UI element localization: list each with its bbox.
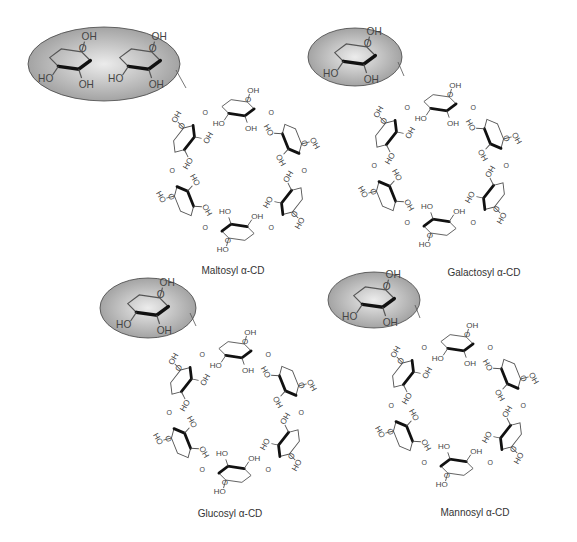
hydroxyl-label: OH <box>403 125 417 140</box>
front-edge <box>499 366 518 391</box>
hydroxyl-label: OH <box>308 136 322 151</box>
glucose-unit: OOHHOOH <box>217 207 264 254</box>
glucose-unit: OOHHOOH <box>462 162 526 226</box>
hydroxyl-label: OH <box>527 371 541 386</box>
hydroxyl-label: HO <box>500 404 514 419</box>
panel-galactosyl: OOHHOOHOOHHOOHOOOHHOOHOOOHHOOHOOOHHOOHOO… <box>308 26 526 278</box>
glycosidic-oxygen: O <box>471 219 477 226</box>
glucose-unit: OOHHOOH <box>151 412 215 476</box>
front-edge <box>441 459 466 466</box>
front-edge <box>222 224 247 231</box>
hydroxyl-label: HO <box>483 164 497 179</box>
hydroxyl-label: OH <box>421 202 433 211</box>
substituent-highlight <box>308 28 402 86</box>
glycosidic-oxygen: O <box>167 409 173 416</box>
cyclodextrin-ring: OOHHOOHOOOHHOOHOOOHHOOHOOOHHOOHOOOHHOOHO… <box>354 81 525 250</box>
oh-bond <box>431 212 433 219</box>
hydroxyl-label: OH <box>511 451 525 466</box>
hydroxyl-label: OH <box>386 269 401 280</box>
hydroxyl-label: OH <box>214 487 226 496</box>
hydroxyl-label: OH <box>198 372 212 387</box>
hydroxyl-label: OH <box>383 317 398 328</box>
glycosidic-oxygen: O <box>203 109 209 116</box>
glucose-unit: OOHHOOH <box>477 341 541 405</box>
glycosidic-oxygen: O <box>389 402 395 409</box>
glycosidic-oxygen: O <box>200 351 206 358</box>
panel-glucosyl: OOHHOOHOOHHOOHOOOHHOOHOOOHHOOHOOOHHOOHOO… <box>100 277 321 519</box>
glycosidic-oxygen: O <box>203 224 209 231</box>
hydroxyl-label: OH <box>289 458 303 473</box>
hydroxyl-label: OH <box>436 480 448 489</box>
hydroxyl-label: OH <box>160 277 175 288</box>
hydroxyl-label: HO <box>201 202 215 217</box>
hydroxyl-label: HO <box>323 68 338 79</box>
hydroxyl-label: HO <box>178 398 192 413</box>
hydroxyl-label: OH <box>244 328 256 337</box>
front-edge <box>431 104 456 111</box>
glycosidic-oxygen: O <box>405 104 411 111</box>
front-edge <box>482 126 501 151</box>
glucose-unit: OOHHOOH <box>460 101 524 165</box>
glucose-unit: OOHHOOH <box>210 328 257 375</box>
glycosidic-oxygen: O <box>269 224 275 231</box>
hydroxyl-label: OH <box>510 131 524 146</box>
hydroxyl-label: OH <box>305 378 319 393</box>
ho-bond <box>221 355 226 362</box>
oh-bond <box>464 351 466 358</box>
hydroxyl-label: HO <box>262 123 276 138</box>
hydroxyl-label: OH <box>447 119 459 128</box>
hydroxyl-label: OH <box>466 321 478 330</box>
oh-bond <box>447 111 449 118</box>
glucose-unit: OOHHOOH <box>432 321 479 368</box>
panel-maltosyl: OOHHOOHOOHHOOHOOHHOOHOOOHHOOHOOOHHOOHOOO… <box>28 27 324 276</box>
glucose-unit: OOHHOOH <box>213 86 260 133</box>
hydroxyl-label: OH <box>185 414 199 429</box>
front-edge <box>396 418 415 443</box>
hydroxyl-label: OH <box>407 407 421 422</box>
cyclodextrin-ring: OOHHOOHOOOHHOOHOOOHHOOHOOOHHOOHOOOHHOOHO… <box>152 86 323 255</box>
glycosidic-oxygen: O <box>170 167 176 174</box>
hydroxyl-label: HO <box>403 197 417 212</box>
glucose-unit: OOHHOOH <box>149 351 213 415</box>
hydroxyl-label: HO <box>108 73 123 84</box>
hydroxyl-label: OH <box>152 31 167 42</box>
front-edge <box>229 109 254 116</box>
glucose-unit: OOHHOOH <box>373 405 437 469</box>
glycosidic-oxygen: O <box>266 351 272 358</box>
substituent-highlight <box>100 278 196 338</box>
hydroxyl-label: OH <box>245 124 257 133</box>
front-edge <box>174 425 193 450</box>
hydroxyl-label: OH <box>274 153 288 168</box>
hydroxyl-label: OH <box>367 26 382 37</box>
hydroxyl-label: HO <box>281 169 295 184</box>
substituent-linkage <box>176 70 186 88</box>
hydroxyl-label: HO <box>464 118 478 133</box>
hydroxyl-label: HO <box>383 151 397 166</box>
glucose-unit: OOHHOOH <box>260 167 324 231</box>
hydroxyl-label: OH <box>476 148 490 163</box>
hydroxyl-label: OH <box>79 79 94 90</box>
hydroxyl-label: OH <box>438 442 450 451</box>
hydroxyl-label: OH <box>390 167 404 182</box>
front-edge <box>277 373 296 398</box>
hydroxyl-label: HO <box>420 437 434 452</box>
hydroxyl-label: OH <box>216 449 228 458</box>
hydroxyl-label: HO <box>278 411 292 426</box>
glucose-unit: OOHHOOH <box>356 165 420 229</box>
hydroxyl-label: OH <box>449 81 461 90</box>
hydroxyl-label: HO <box>181 156 195 171</box>
front-edge <box>424 219 449 226</box>
glycosidic-oxygen: O <box>422 459 428 466</box>
hydroxyl-label: OH <box>463 190 477 205</box>
panel-label: Galactosyl α-CD <box>447 267 520 278</box>
hydroxyl-label: HO <box>210 361 222 370</box>
ho-bond <box>224 113 229 120</box>
glucose-unit: OOHHOOH <box>258 106 322 170</box>
hydroxyl-label: OH <box>373 424 387 439</box>
hydroxyl-label: OH <box>157 325 172 336</box>
hydroxyl-label: HO <box>213 119 225 128</box>
hydroxyl-label: HO <box>198 444 212 459</box>
hydroxyl-label: HO <box>116 319 131 330</box>
hydroxyl-label: HO <box>259 365 273 380</box>
oh-bond <box>226 459 228 466</box>
